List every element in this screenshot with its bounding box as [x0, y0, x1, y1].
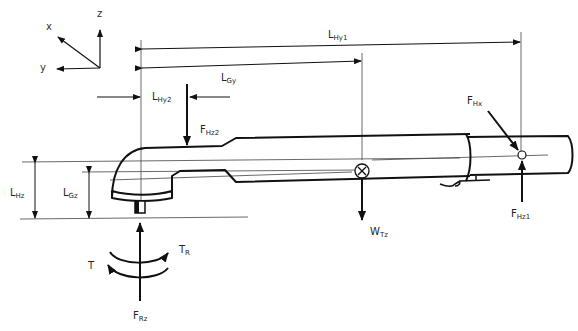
label-FRz: FRz — [133, 311, 147, 323]
grip-point-icon — [518, 151, 526, 159]
axis-label-y: y — [40, 63, 46, 73]
force-FHx-arrow — [488, 111, 518, 150]
axis-label-x: x — [46, 22, 52, 32]
tool-body — [112, 134, 573, 201]
tool-chuck-shade — [135, 201, 139, 213]
label-LGz: LGz — [63, 188, 78, 200]
y-axis-arrow — [57, 68, 100, 69]
tool-trigger-lever — [440, 180, 490, 186]
coordinate-axes — [57, 30, 100, 69]
center-of-gravity-icon — [355, 164, 369, 178]
label-T: T — [88, 261, 94, 273]
label-LHz: LHz — [10, 188, 25, 200]
label-LHy2: LHy2 — [152, 92, 171, 104]
torque-T-arrow — [108, 265, 168, 277]
dimension-LGy-line — [142, 61, 361, 68]
label-WTz: WTz — [370, 227, 388, 239]
tool-head-outline — [112, 134, 470, 198]
tool-head-bottom — [112, 191, 172, 201]
label-FHx: FHx — [467, 96, 482, 108]
label-LHy1: LHy1 — [328, 30, 347, 42]
axis-label-z: z — [97, 9, 102, 19]
dimension-LHy1-line — [142, 42, 520, 49]
label-FHz1: FHz1 — [511, 209, 530, 221]
label-TR: TR — [179, 245, 190, 257]
label-FHz2: FHz2 — [200, 125, 219, 137]
x-axis-arrow — [58, 37, 100, 68]
ref-line-ground — [20, 217, 248, 219]
free-body-diagram — [0, 0, 578, 331]
label-LGy: LGy — [221, 73, 236, 85]
ref-line-upper-z — [22, 158, 460, 162]
